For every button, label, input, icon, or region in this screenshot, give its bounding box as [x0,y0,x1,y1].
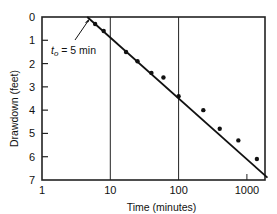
arrowhead-icon [85,19,89,23]
y-tick-label: 0 [29,11,35,23]
x-tick-label: 100 [169,184,187,196]
data-point [135,59,139,63]
y-tick-label: 2 [29,58,35,70]
y-tick-label: 4 [29,104,35,116]
y-tick-label: 3 [29,81,35,93]
y-tick-label: 7 [29,174,35,186]
data-point [124,50,128,54]
data-point [101,29,105,33]
annotation-label: to = 5 min [51,44,96,58]
data-point [149,71,153,75]
annotation-arrow [75,20,89,40]
y-tick-label: 1 [29,34,35,46]
data-point [176,94,180,98]
x-tick-label: 1000 [235,184,259,196]
plot-frame [42,17,265,180]
data-point [161,75,165,79]
x-axis-label: Time (minutes) [127,201,197,213]
y-tick-label: 6 [29,151,35,163]
data-point [201,108,205,112]
x-tick-label: 10 [104,184,116,196]
data-point [236,138,240,142]
data-point [93,22,97,26]
y-tick-label: 5 [29,127,35,139]
y-axis-label: Drawdown (feet) [8,70,20,147]
data-point [255,157,259,161]
drawdown-chart: 012345671101001000Time (minutes)Drawdown… [0,0,277,214]
data-point [218,127,222,131]
x-tick-label: 1 [39,184,45,196]
